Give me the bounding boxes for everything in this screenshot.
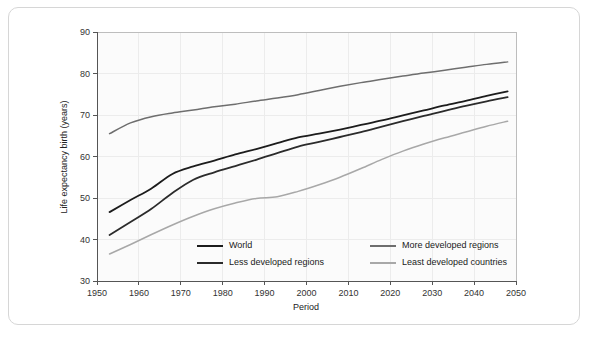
x-tick-label: 2010 [338,288,358,298]
x-axis-title: Period [293,302,319,312]
x-tick-label: 1970 [171,288,191,298]
chart-container: 30405060708090 1950196019701980199020002… [0,0,589,339]
y-axis-title: Life expectancy birth (years) [59,100,69,213]
x-tick-label: 2050 [506,288,526,298]
legend-label-world: World [229,240,252,250]
x-tick-label: 1960 [129,288,149,298]
y-tick-label: 50 [80,193,90,203]
y-tick-label: 90 [80,27,90,37]
y-tick-label: 80 [80,69,90,79]
legend-label-more-developed-regions: More developed regions [402,240,499,250]
x-axis-tick-labels: 1950196019701980199020002010202020302040… [87,288,526,298]
y-axis-tick-labels: 30405060708090 [80,27,90,286]
x-tick-label: 2040 [464,288,484,298]
y-tick-label: 40 [80,235,90,245]
x-tick-label: 1980 [213,288,233,298]
line-chart: 30405060708090 1950196019701980199020002… [0,0,589,339]
x-tick-label: 2000 [296,288,316,298]
y-tick-label: 70 [80,110,90,120]
x-tick-label: 1950 [87,288,107,298]
legend-label-less-developed-regions: Less developed regions [229,257,325,267]
x-tick-label: 1990 [255,288,275,298]
y-tick-label: 60 [80,152,90,162]
x-tick-label: 2020 [380,288,400,298]
y-tick-label: 30 [80,276,90,286]
x-tick-label: 2030 [422,288,442,298]
legend-label-least-developed-countries: Least developed countries [402,257,508,267]
